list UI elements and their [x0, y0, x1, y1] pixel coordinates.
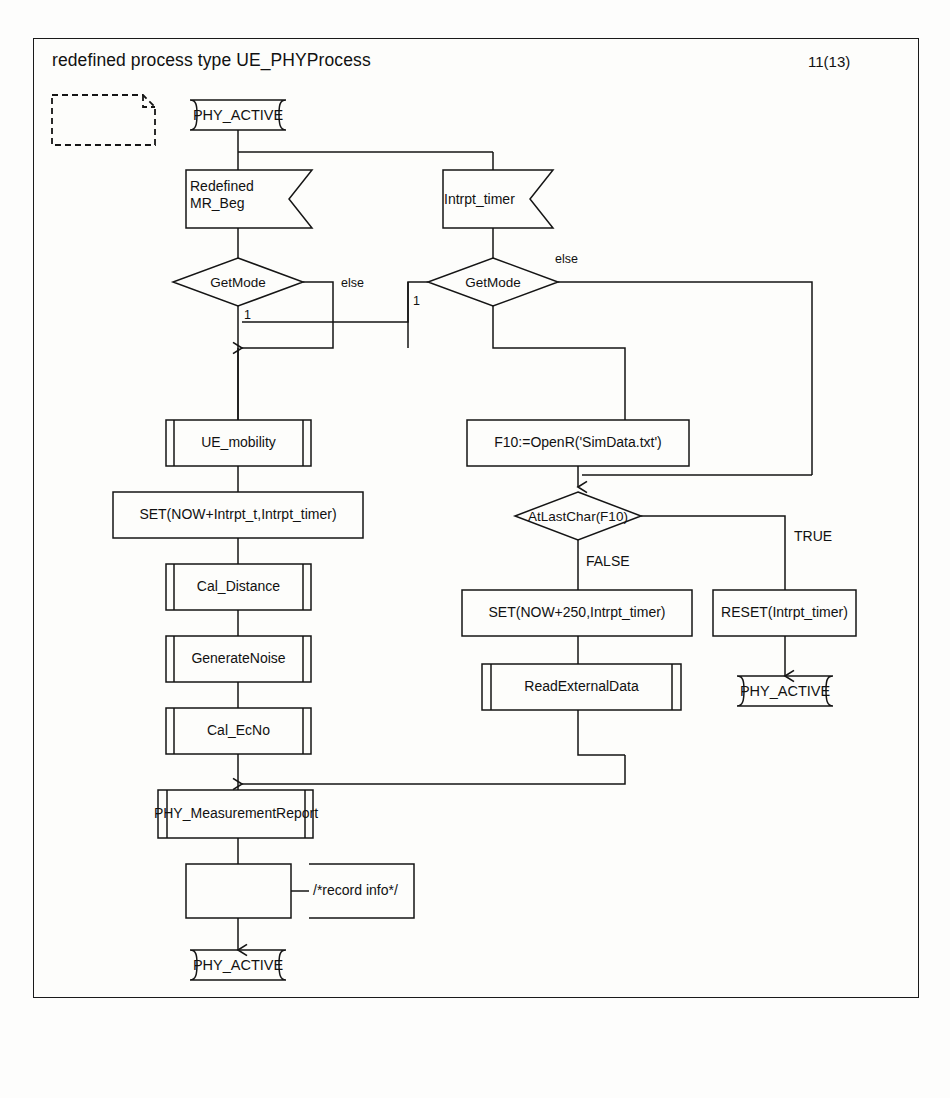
page-canvas: redefined process type UE_PHYProcess 11(… [0, 0, 950, 1098]
edge-label-right-else: else [555, 252, 578, 266]
page-title: redefined process type UE_PHYProcess [52, 52, 371, 70]
edge-label-left-one: 1 [244, 308, 251, 322]
task-reset-timer-label: RESET(Intrpt_timer) [706, 605, 863, 621]
edge-label-false: FALSE [586, 553, 630, 569]
procedure-generate-noise-label: GenerateNoise [166, 651, 311, 667]
task-openr-label: F10:=OpenR('SimData.txt') [467, 435, 689, 451]
decision-getmode-left-label: GetMode [188, 275, 288, 290]
procedure-cal-ecno-label: Cal_EcNo [166, 723, 311, 739]
procedure-ue-mobility-label: UE_mobility [166, 435, 311, 451]
decision-atlastchar-label: AtLastChar(F10) [498, 509, 658, 524]
edge-label-right-one: 1 [413, 294, 420, 308]
edge-label-true: TRUE [794, 528, 832, 544]
task-set-250-label: SET(NOW+250,Intrpt_timer) [462, 605, 692, 621]
procedure-read-external-data-label: ReadExternalData [482, 679, 681, 695]
page-number-label: 11(13) [808, 54, 850, 69]
input-intrpt-timer-label: Intrpt_timer [444, 192, 544, 208]
edge-label-left-else: else [341, 276, 364, 290]
task-set-intrpt-label: SET(NOW+Intrpt_t,Intrpt_timer) [113, 507, 363, 523]
procedure-cal-distance-label: Cal_Distance [166, 579, 311, 595]
end-state-right-label: PHY_ACTIVE [737, 683, 833, 699]
output-phy-measurement-report-label: PHY_MeasurementReport [136, 806, 336, 822]
input-mr-beg-label-line1: Redefined [190, 179, 290, 195]
start-state-label: PHY_ACTIVE [190, 107, 286, 123]
input-mr-beg-label-line2: MR_Beg [190, 196, 290, 212]
comment-record-info-label: /*record info*/ [313, 883, 413, 899]
decision-getmode-right-label: GetMode [443, 275, 543, 290]
end-state-left-label: PHY_ACTIVE [190, 957, 286, 973]
